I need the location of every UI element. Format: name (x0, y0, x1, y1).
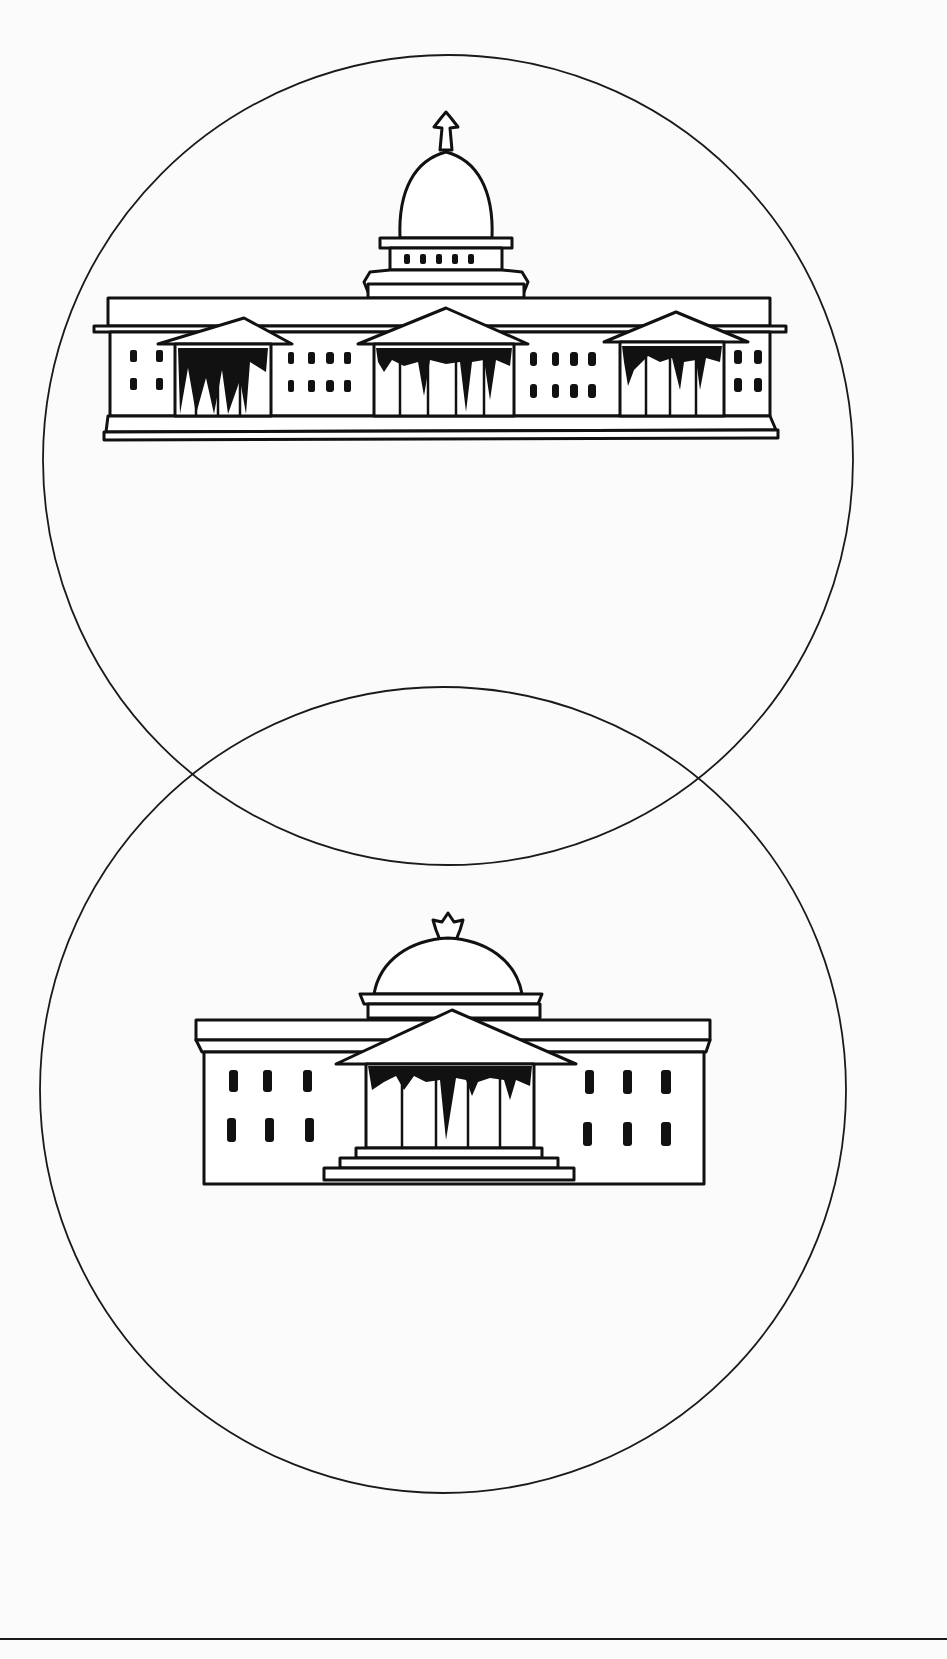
upper-building-icon (94, 112, 786, 440)
footer-rule (0, 1638, 947, 1640)
lower-building-icon (196, 913, 710, 1184)
figure-canvas (0, 0, 947, 1659)
footer-caption (0, 1646, 947, 1659)
